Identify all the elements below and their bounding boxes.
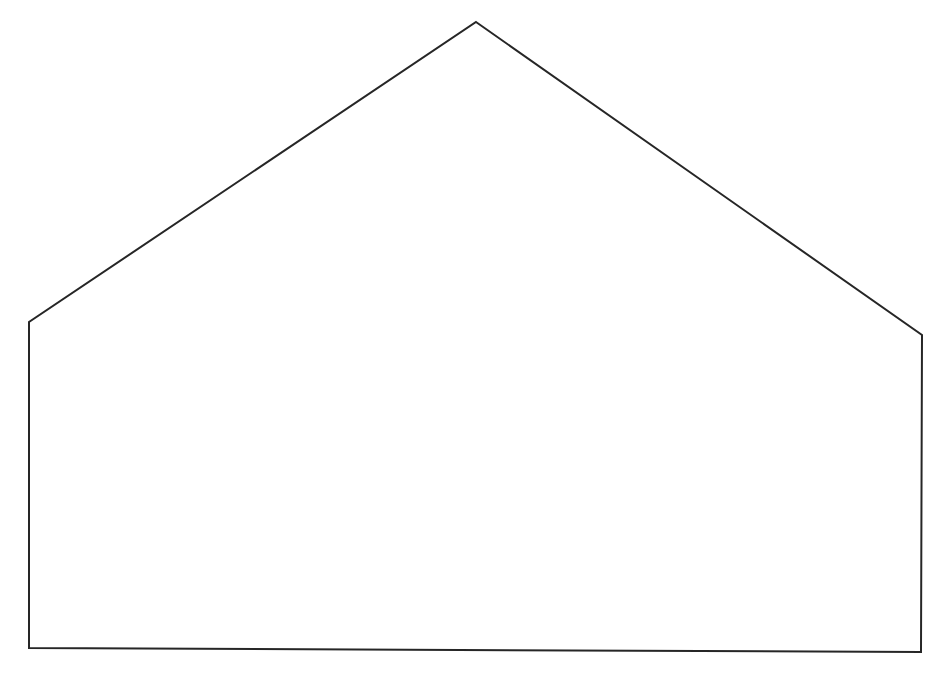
figure-canvas <box>0 0 949 675</box>
pentagon-house-diagram <box>0 0 949 675</box>
